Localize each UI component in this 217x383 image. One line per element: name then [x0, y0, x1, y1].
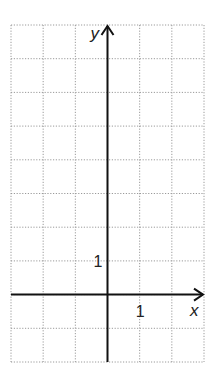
y-axis — [102, 26, 114, 362]
x-axis-label: x — [189, 301, 199, 320]
y-tick-label: 1 — [94, 253, 103, 270]
x-tick-label: 1 — [136, 303, 145, 320]
coordinate-grid-chart: x y 1 1 — [0, 0, 217, 383]
y-axis-label: y — [90, 24, 101, 43]
